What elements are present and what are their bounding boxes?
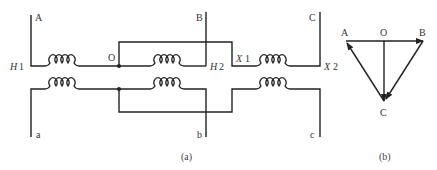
- panel-a-circuit: A B C a b c H 1 H 2 X 1 X 2 O (a): [9, 12, 338, 163]
- phasor-B-C: [386, 41, 423, 99]
- label-H2: H: [209, 61, 218, 72]
- wire-c: [290, 89, 320, 137]
- label-b-C: C: [380, 107, 387, 118]
- label-X2: X: [323, 61, 331, 72]
- coil-primary-3: [256, 55, 290, 66]
- label-c: c: [310, 129, 315, 140]
- label-B: B: [196, 12, 203, 23]
- coil-primary-2: [150, 55, 184, 66]
- panel-b-phasor: A O B C (b): [341, 27, 426, 163]
- label-b: b: [197, 129, 202, 140]
- label-H2-num: 2: [219, 61, 224, 72]
- coil-secondary-1: [45, 78, 79, 89]
- label-A: A: [35, 12, 43, 23]
- label-X1-num: 1: [245, 53, 250, 64]
- coil-secondary-2: [150, 78, 184, 89]
- transformer-diagram: A B C a b c H 1 H 2 X 1 X 2 O (a) A O B …: [0, 0, 437, 170]
- caption-b: (b): [379, 151, 391, 163]
- coil-primary-1: [45, 55, 79, 66]
- coil-secondary-3: [256, 78, 290, 89]
- phasor-C-A: [347, 43, 384, 101]
- wire-lower-loop: [119, 89, 256, 112]
- junction-bottom: [117, 87, 121, 91]
- diagram-svg: A B C a b c H 1 H 2 X 1 X 2 O (a) A O B …: [0, 0, 437, 170]
- label-H1-num: 1: [19, 61, 24, 72]
- label-X2-num: 2: [333, 61, 338, 72]
- label-b-B: B: [419, 27, 426, 38]
- junction-O-top: [117, 64, 121, 68]
- label-X1: X: [235, 53, 243, 64]
- label-O: O: [108, 52, 115, 63]
- label-b-A: A: [341, 27, 349, 38]
- label-a: a: [36, 129, 41, 140]
- wire-b: [184, 89, 206, 137]
- label-b-O: O: [380, 27, 387, 38]
- label-H1: H: [9, 61, 18, 72]
- label-C: C: [309, 12, 316, 23]
- caption-a: (a): [181, 151, 192, 163]
